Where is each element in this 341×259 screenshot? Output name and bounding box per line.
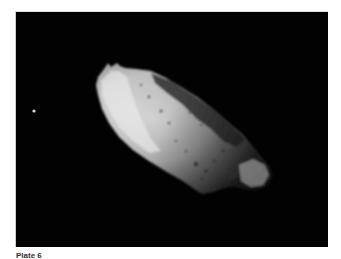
asteroid-photo (15, 11, 328, 247)
figure-caption: Plate 6 (16, 252, 42, 259)
photograph (15, 11, 328, 247)
asteroid (96, 63, 272, 194)
small-moon (32, 109, 35, 112)
faint-header-text (30, 0, 270, 6)
